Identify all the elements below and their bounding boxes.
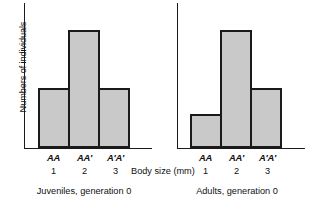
genotype-label: AA′ bbox=[229, 152, 244, 163]
size-tick-label: 1 bbox=[51, 166, 56, 176]
size-ticks-adults: 1 2 3 bbox=[190, 166, 283, 176]
genotype-label: A′A′ bbox=[259, 152, 276, 163]
bar-adults-AA[interactable] bbox=[190, 114, 222, 148]
panel-adults: AA AA′ A′A′ 1 2 3 Adults, generation 0 bbox=[153, 0, 312, 215]
genotype-label: AA bbox=[47, 152, 60, 163]
caption-juveniles: Juveniles, generation 0 bbox=[14, 186, 154, 196]
bar-juveniles-AA[interactable] bbox=[38, 88, 70, 148]
bar-adults-ApAp[interactable] bbox=[250, 88, 282, 148]
size-tick-label: 2 bbox=[82, 166, 87, 176]
panel-juveniles: AA AA′ A′A′ 1 2 3 Juveniles, generation … bbox=[0, 0, 162, 215]
bars-juveniles bbox=[38, 30, 130, 148]
size-tick-label: 3 bbox=[265, 166, 270, 176]
genotype-label: AA′ bbox=[77, 152, 92, 163]
size-tick-label: 3 bbox=[113, 166, 118, 176]
genotype-ticks-adults: AA AA′ A′A′ bbox=[190, 152, 283, 163]
bars-adults bbox=[190, 30, 282, 148]
size-tick-label: 1 bbox=[203, 166, 208, 176]
bar-juveniles-AAp[interactable] bbox=[68, 30, 100, 148]
y-axis-line-juveniles bbox=[24, 3, 25, 149]
bar-adults-AAp[interactable] bbox=[220, 30, 252, 148]
caption-adults: Adults, generation 0 bbox=[167, 186, 307, 196]
genotype-label: AA bbox=[199, 152, 212, 163]
figure: Numbers of individuals AA AA′ A′A′ 1 2 3… bbox=[0, 0, 312, 215]
genotype-label: A′A′ bbox=[107, 152, 124, 163]
x-axis-line-juveniles bbox=[24, 148, 152, 149]
size-ticks-juveniles: 1 2 3 bbox=[38, 166, 131, 176]
genotype-ticks-juveniles: AA AA′ A′A′ bbox=[38, 152, 131, 163]
size-tick-label: 2 bbox=[234, 166, 239, 176]
y-axis-line-adults bbox=[177, 3, 178, 149]
bar-juveniles-ApAp[interactable] bbox=[98, 88, 130, 148]
x-axis-line-adults bbox=[177, 148, 305, 149]
